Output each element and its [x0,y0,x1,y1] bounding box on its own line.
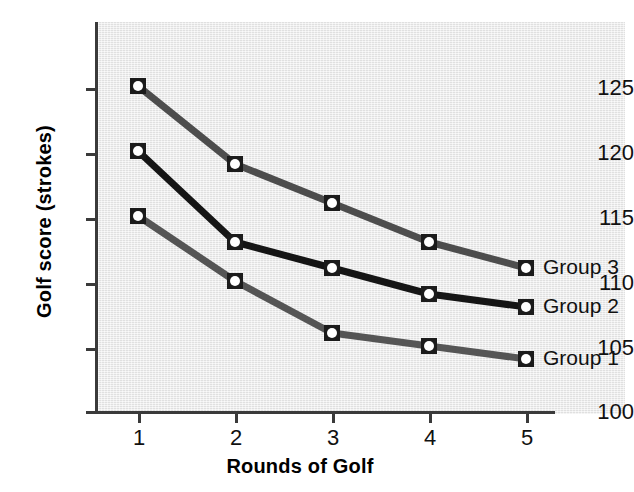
data-point-marker [518,299,534,315]
data-point-marker [421,286,437,302]
marker-dot [133,146,143,156]
marker-dot [327,328,337,338]
data-point-marker [518,351,534,367]
marker-dot [230,276,240,286]
series-label-group-3: Group 3 [543,255,619,279]
data-point-marker [227,273,243,289]
golf-score-line-chart: 125 120 115 110 105 100 1 2 3 4 5 Rounds… [0,0,634,492]
marker-dot [521,263,531,273]
series-layer [130,78,534,367]
data-point-marker [421,338,437,354]
data-point-marker [324,195,340,211]
series-plot [0,0,634,492]
marker-dot [327,263,337,273]
series-label-group-2: Group 2 [543,294,619,318]
marker-dot [230,159,240,169]
data-point-marker [421,234,437,250]
marker-dot [521,354,531,364]
data-point-marker [227,234,243,250]
series-line-group-3 [138,86,526,268]
marker-dot [521,302,531,312]
marker-dot [424,341,434,351]
data-point-marker [518,260,534,276]
marker-dot [424,237,434,247]
marker-dot [230,237,240,247]
data-point-marker [324,325,340,341]
data-point-marker [324,260,340,276]
series-line-group-2 [138,151,526,307]
data-point-marker [130,208,146,224]
series-label-group-1: Group 1 [543,346,619,370]
marker-dot [133,81,143,91]
marker-dot [133,211,143,221]
data-point-marker [130,143,146,159]
marker-dot [424,289,434,299]
data-point-marker [227,156,243,172]
marker-dot [327,198,337,208]
data-point-marker [130,78,146,94]
